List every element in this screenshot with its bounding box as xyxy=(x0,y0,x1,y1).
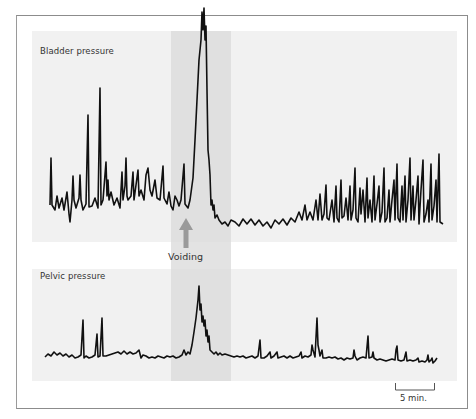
time-scale-label: 5 min. xyxy=(400,393,427,403)
pressure-traces xyxy=(0,0,476,419)
pelvic-pressure-trace xyxy=(45,286,437,363)
bladder-pressure-trace xyxy=(50,8,443,228)
time-scale-bar xyxy=(395,383,435,391)
